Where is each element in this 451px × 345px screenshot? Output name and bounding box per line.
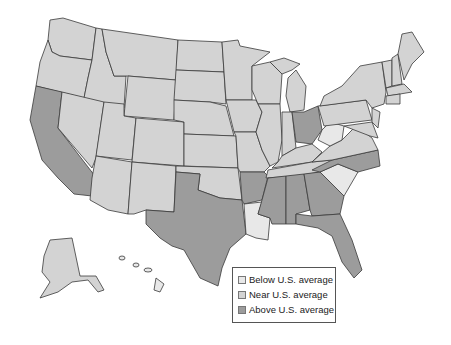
state-new-york [320,62,386,108]
swatch-near [238,291,246,299]
state-wyoming [124,76,176,120]
map-legend: Below U.S. average Near U.S. average Abo… [232,267,336,323]
state-michigan [286,70,306,112]
swatch-above [238,306,246,314]
state-north-dakota [176,40,224,72]
swatch-below [238,276,246,284]
state-arizona [90,156,132,214]
state-alaska [40,238,104,298]
state-colorado [132,118,184,166]
us-map [0,0,451,345]
state-ohio [292,106,322,144]
legend-label: Below U.S. average [249,274,333,285]
state-south-dakota [174,70,226,104]
legend-label: Near U.S. average [249,289,328,300]
state-montana [102,29,178,80]
legend-item-below: Below U.S. average [238,272,330,287]
state-hawaii [119,256,164,292]
state-maine [398,32,424,80]
legend-label: Above U.S. average [249,304,334,315]
state-connecticut [386,94,400,104]
state-kansas [184,134,238,168]
legend-item-near: Near U.S. average [238,287,330,302]
state-new-mexico [128,162,176,214]
legend-item-above: Above U.S. average [238,302,330,317]
